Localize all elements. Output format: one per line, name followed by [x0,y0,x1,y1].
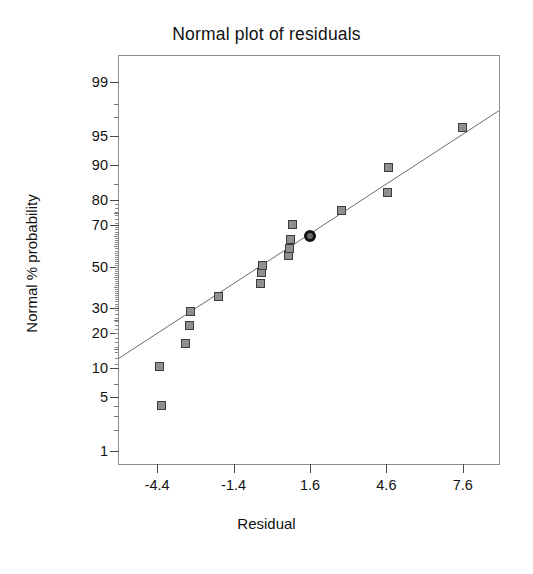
y-axis-minor-tick [115,333,119,334]
y-axis-minor-tick [115,259,119,260]
y-axis-tick-label: 5 [100,389,108,405]
y-axis-minor-tick [115,255,119,256]
y-axis-tick-label: 80 [92,192,108,208]
y-axis-minor-tick [115,208,119,209]
data-point[interactable] [185,321,194,330]
data-point[interactable] [214,292,223,301]
y-axis-minor-tick [115,329,119,330]
x-axis-tick-label: -4.4 [145,477,170,493]
y-axis-minor-tick [115,277,119,278]
y-axis-minor-tick [115,227,119,228]
y-axis-minor-tick [115,238,119,239]
y-axis-minor-tick [115,301,119,302]
y-axis-minor-tick [115,299,119,300]
y-axis-minor-tick [115,338,119,339]
y-axis-minor-tick [115,229,119,230]
y-axis-minor-tick [115,364,119,365]
y-axis-minor-tick [115,314,119,315]
x-axis-tick [463,464,464,473]
data-point[interactable] [181,339,190,348]
y-axis-tick [110,165,119,166]
y-axis-minor-tick [115,273,119,274]
y-axis-minor-tick [115,248,119,249]
y-axis-minor-tick [114,117,119,118]
y-axis-minor-tick [115,269,119,270]
y-axis-minor-tick [114,104,119,105]
y-axis-minor-tick [115,295,119,296]
y-axis-minor-tick [115,281,119,282]
y-axis-tick [110,308,119,309]
data-point[interactable] [286,235,295,244]
data-point[interactable] [256,279,265,288]
y-axis-minor-tick [115,215,119,216]
x-axis-tick [310,464,311,473]
data-point[interactable] [288,220,297,229]
y-axis-minor-tick [115,240,119,241]
y-axis-minor-tick [115,358,119,359]
y-axis-minor-tick [114,213,119,214]
y-axis-minor-tick [115,236,119,237]
x-axis-tick-label: 7.6 [453,477,473,493]
x-axis-tick [386,464,387,473]
data-point[interactable] [458,123,467,132]
y-axis-minor-tick [115,253,119,254]
y-axis-minor-tick [114,406,119,407]
data-point[interactable] [186,307,195,316]
y-axis-minor-tick [115,285,119,286]
chart-title: Normal plot of residuals [0,24,533,45]
data-point[interactable] [384,163,393,172]
y-axis-minor-tick [115,291,119,292]
y-axis-tick [110,368,119,369]
y-axis-minor-tick [115,234,119,235]
y-axis-tick-label: 20 [92,325,108,341]
y-axis-minor-tick [115,347,119,348]
data-point[interactable] [258,261,267,270]
data-point[interactable] [285,244,294,253]
y-axis-minor-tick [115,271,119,272]
y-axis-tick [110,225,119,226]
y-axis-tick-label: 1 [100,443,108,459]
plot-frame: 15102030507080909599-4.4-1.41.64.67.6 [118,55,500,465]
y-axis-minor-tick [115,265,119,266]
y-axis-minor-tick [114,416,119,417]
highlighted-data-point[interactable] [304,230,316,242]
y-axis-minor-tick [115,246,119,247]
y-axis-tick-label: 99 [92,74,108,90]
data-point[interactable] [337,206,346,215]
y-axis-minor-tick [115,251,119,252]
y-axis-minor-tick [115,212,119,213]
y-axis-minor-tick [115,287,119,288]
y-axis-minor-tick [115,306,119,307]
y-axis-tick [110,136,119,137]
y-axis-minor-tick [114,349,119,350]
data-point[interactable] [383,188,392,197]
y-axis-minor-tick [115,263,119,264]
x-axis-title: Residual [0,515,533,532]
y-axis-tick-label: 30 [92,300,108,316]
reference-line [119,56,499,464]
y-axis-tick-label: 10 [92,360,108,376]
plot-area: 15102030507080909599-4.4-1.41.64.67.6 [119,56,499,464]
y-axis-minor-tick [115,289,119,290]
y-axis-minor-tick [115,223,119,224]
y-axis-minor-tick [115,352,119,353]
y-axis-minor-tick [115,232,119,233]
y-axis-tick-label: 95 [92,128,108,144]
y-axis-tick [110,397,119,398]
x-axis-tick [234,464,235,473]
y-axis-minor-tick [114,430,119,431]
y-axis-minor-tick [115,257,119,258]
y-axis-tick [110,451,119,452]
y-axis-tick-label: 90 [92,157,108,173]
y-axis-tick [110,200,119,201]
data-point[interactable] [155,362,164,371]
x-axis-tick-label: -1.4 [221,477,246,493]
y-axis-minor-tick [115,321,119,322]
y-axis-minor-tick [115,275,119,276]
y-axis-minor-tick [114,184,119,185]
normal-probability-plot: Normal plot of residuals Normal % probab… [0,0,533,574]
y-axis-minor-tick [115,204,119,205]
y-axis-title: Normal % probability [23,154,40,374]
y-axis-minor-tick [115,242,119,243]
data-point[interactable] [157,401,166,410]
